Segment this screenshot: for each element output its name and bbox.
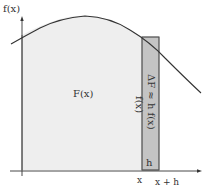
height-label: f(x) [134,96,145,113]
x-tick-left: x [137,175,142,185]
area-label: F(x) [73,88,93,99]
integral-diagram: f(x) F(x) f(x) ΔF ≈ h f(x) h x x + h [0,0,205,185]
x-axis-arrow-icon [197,169,202,172]
x-tick-right: x + h [155,177,179,185]
y-axis-arrow-icon [20,16,23,21]
strip-label: ΔF ≈ h f(x) [146,74,157,130]
y-axis-label: f(x) [3,3,20,14]
width-label: h [146,157,153,168]
